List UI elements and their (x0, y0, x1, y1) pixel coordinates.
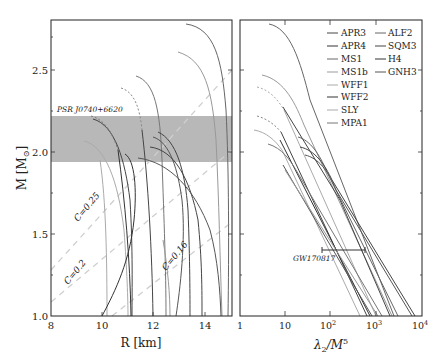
curve-ms1 (186, 24, 229, 316)
svg-text:GNH3: GNH3 (388, 67, 417, 77)
c020-line (51, 150, 232, 302)
xtick-label: 1 (237, 320, 243, 331)
tcurve-apr3-dash (257, 116, 281, 132)
svg-text:SLY: SLY (341, 105, 360, 115)
tcurve-ms1b (262, 75, 392, 316)
tcurve-extra (285, 170, 378, 316)
psr-band-label: PSR J0740+6620 (56, 105, 123, 114)
curve-extra-2 (163, 240, 170, 316)
legend-item-mpa1: MPA1 (327, 118, 368, 128)
tcurve-apr3 (281, 132, 367, 316)
svg-text:WFF1: WFF1 (341, 80, 368, 90)
xtick-label: 14 (199, 320, 212, 331)
left-x-axis-label: R [km] (121, 336, 162, 350)
legend-item-ms1b: MS1b (327, 67, 368, 77)
legend-item-gnh3: GNH3 (375, 67, 417, 77)
svg-text:ALF2: ALF2 (387, 28, 412, 38)
ytick-label: 1.5 (32, 229, 48, 240)
ytick-label: 2.5 (32, 65, 48, 76)
c02-label: C=0.2 (62, 258, 88, 287)
right-panel-tidal-deformability: GW170817 1 10 102 10 (237, 20, 428, 354)
ytick-label: 1.0 (32, 311, 48, 322)
left-y-axis-label: M [M⊙] (15, 146, 31, 190)
xtick-label: 103 (366, 319, 382, 331)
curve-wff1 (100, 160, 107, 316)
svg-text:SQM3: SQM3 (388, 41, 417, 51)
legend-item-wff2: WFF2 (327, 92, 368, 102)
xtick-label: 12 (147, 320, 160, 331)
legend-item-sly: SLY (327, 105, 360, 115)
legend-item-sqm3: SQM3 (375, 41, 417, 51)
left-panel-mass-radius: 8 10 12 14 1.0 1.5 2.0 2.5 R [km] M [M⊙]… (15, 20, 232, 350)
xtick-label: 10 (279, 320, 291, 331)
xtick-label: 10 (96, 320, 109, 331)
svg-text:H4: H4 (388, 54, 402, 64)
mr-curves (84, 24, 229, 316)
xtick-label: 104 (412, 319, 428, 331)
right-tick-labels: 1 10 102 103 104 (237, 319, 428, 331)
tcurve-sly (254, 130, 360, 316)
right-ticks (240, 20, 422, 316)
svg-text:APR4: APR4 (340, 41, 366, 51)
legend-item-apr3: APR3 (327, 28, 366, 38)
svg-text:APR3: APR3 (340, 28, 366, 38)
right-axes-frame (240, 20, 422, 316)
ytick-label: 2.0 (32, 147, 48, 158)
svg-text:MS1: MS1 (341, 54, 362, 64)
xtick-label: 102 (320, 319, 336, 331)
legend-item-h4: H4 (375, 54, 402, 64)
legend: APR3 APR4 MS1 MS1b WFF1 WFF2 SLY MPA1 AL… (327, 28, 417, 128)
gw170817-label: GW170817 (293, 254, 336, 263)
svg-text:MPA1: MPA1 (341, 118, 368, 128)
tcurve-sqm3 (283, 107, 390, 316)
legend-item-wff1: WFF1 (327, 80, 368, 90)
figure: 8 10 12 14 1.0 1.5 2.0 2.5 R [km] M [M⊙]… (0, 0, 444, 362)
svg-text:WFF2: WFF2 (341, 92, 368, 102)
curve-mpa1 (136, 76, 166, 316)
tcurve-alf2 (298, 137, 398, 316)
tcurve-wff1 (284, 110, 376, 316)
curve-h4 (150, 147, 202, 316)
xtick-label: 8 (48, 320, 54, 331)
c025-line (51, 70, 232, 270)
right-x-axis-label: λ2/M5 (313, 337, 348, 354)
legend-item-alf2: ALF2 (375, 28, 412, 38)
psr-band (51, 116, 232, 162)
svg-text:MS1b: MS1b (341, 67, 368, 77)
legend-item-ms1: MS1 (327, 54, 362, 64)
tcurve-ms1 (269, 24, 394, 316)
legend-item-apr4: APR4 (327, 41, 366, 51)
tcurve-wff1-dash (257, 87, 284, 110)
